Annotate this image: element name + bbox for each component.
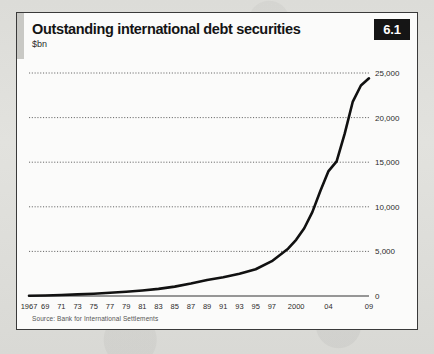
source-note: Source: Bank for International Settlemen… [32,315,158,322]
x-axis-tick-label: 77 [106,302,114,311]
x-axis-tick-label: 87 [187,302,195,311]
data-series-line [29,78,369,295]
x-axis-tick-label: 85 [171,302,179,311]
x-axis-tick-label: 91 [219,302,227,311]
x-axis-tick-label: 2000 [288,302,305,311]
x-axis-tick-label: 69 [41,302,49,311]
y-axis-tick-label: 5,000 [375,247,396,256]
x-axis-tick-label: 71 [57,302,65,311]
x-axis-tick-label: 09 [365,302,373,311]
x-axis-tick-label: 93 [235,302,243,311]
x-axis-tick-label: 89 [203,302,211,311]
y-axis-tick-label: 10,000 [375,203,400,212]
y-axis-tick-label: 25,000 [375,69,400,78]
line-chart: 05,00010,00015,00020,00025,0001967697173… [17,13,419,331]
x-axis-tick-label: 95 [251,302,259,311]
x-axis-tick-label: 81 [138,302,146,311]
x-axis-tick-label: 79 [122,302,130,311]
x-axis-tick-label: 97 [268,302,276,311]
y-axis-tick-label: 20,000 [375,114,400,123]
x-axis-tick-label: 83 [154,302,162,311]
x-axis-tick-label: 73 [73,302,81,311]
y-axis-tick-label: 15,000 [375,158,400,167]
x-axis-tick-label: 04 [324,302,332,311]
y-axis-tick-label: 0 [375,292,380,301]
x-axis-tick-label: 1967 [21,302,38,311]
x-axis-tick-label: 75 [90,302,98,311]
chart-card: Outstanding international debt securitie… [16,12,418,330]
